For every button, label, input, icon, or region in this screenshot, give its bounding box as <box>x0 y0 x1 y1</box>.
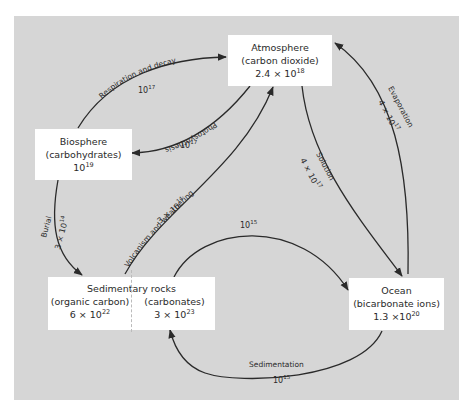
ocean-subtitle: (bicarbonate ions) <box>349 297 444 310</box>
volcanism-label: Volcanism and weathering <box>123 188 196 269</box>
burial-label: Burial <box>39 215 53 238</box>
atmosphere-subtitle: (carbon dioxide) <box>228 54 332 67</box>
sedimentation-value: 1015 <box>273 374 291 385</box>
sedimentation-arrow <box>170 330 382 378</box>
atmosphere-title: Atmosphere <box>228 41 332 54</box>
biosphere-amount: 1019 <box>35 161 132 174</box>
atmosphere-box: Atmosphere (carbon dioxide) 2.4 × 1018 <box>228 35 332 86</box>
photosynthesis-value: 1017 <box>180 139 198 150</box>
ocean-box: Ocean (bicarbonate ions) 1.3 ×1020 <box>349 278 444 330</box>
sedimentary-divider <box>131 270 132 332</box>
volcanism-arrow <box>125 87 273 274</box>
biosphere-title: Biosphere <box>35 135 132 148</box>
ocean-amount: 1.3 ×1020 <box>349 310 444 323</box>
ocean-title: Ocean <box>349 284 444 297</box>
volcanism-value: 3 × 1014 <box>154 195 188 226</box>
sedimentation-label: Sedimentation <box>249 360 304 369</box>
carbonates-subtitle: (carbonates) <box>134 295 215 308</box>
photosynthesis-label: Photosynthesis <box>164 120 219 155</box>
respiration-value: 1017 <box>138 84 156 95</box>
sedimentary-organic: (organic carbon) 6 × 1022 <box>48 295 132 321</box>
dissolution-value: 1015 <box>240 219 258 230</box>
organic-subtitle: (organic carbon) <box>48 295 132 308</box>
biosphere-subtitle: (carbohydrates) <box>35 148 132 161</box>
evaporation-arrow <box>335 43 408 274</box>
sedimentary-carbonates: (carbonates) 3 × 1023 <box>134 295 215 321</box>
biosphere-box: Biosphere (carbohydrates) 1019 <box>35 129 132 180</box>
organic-amount: 6 × 1022 <box>48 308 132 321</box>
atmosphere-amount: 2.4 × 1018 <box>228 67 332 80</box>
carbonates-amount: 3 × 1023 <box>134 308 215 321</box>
